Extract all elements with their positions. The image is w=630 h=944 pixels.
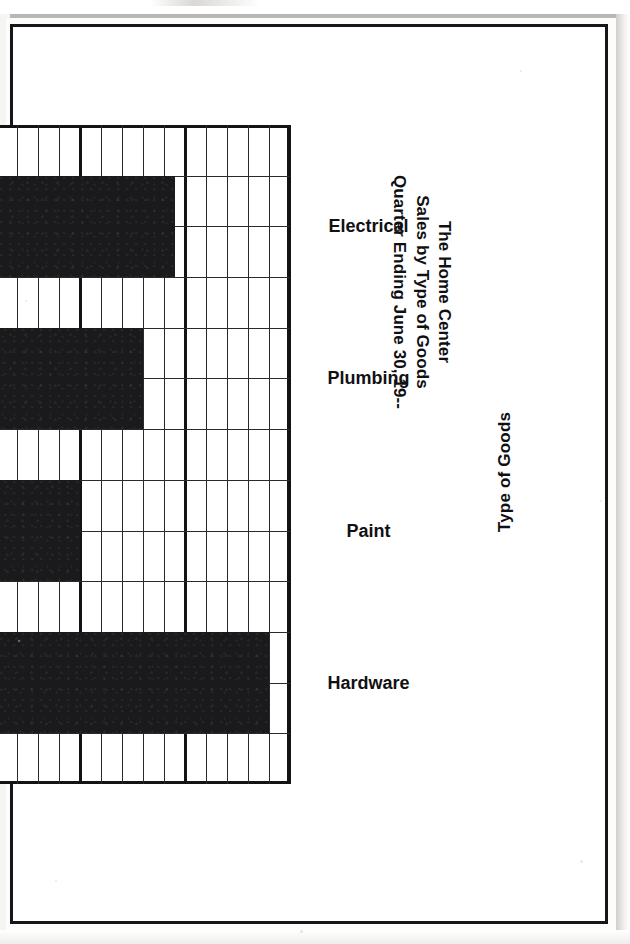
plot-area [0, 125, 290, 784]
scan-speckle [18, 640, 20, 642]
gridline-vertical [0, 277, 290, 278]
rotated-chart-wrapper: The Home Center Sales by Type of Goods Q… [55, 57, 575, 887]
category-label-paint: Paint [289, 520, 449, 541]
scan-speckle [55, 880, 57, 882]
bar-chart: The Home Center Sales by Type of Goods Q… [55, 57, 575, 887]
chart-title-line-2: Sales by Type of Goods [410, 127, 432, 457]
category-label-electrical: Electrical [289, 216, 449, 237]
gridline-vertical [0, 429, 290, 430]
bar-paint [0, 480, 81, 581]
chart-title-line-3: Quarter Ending June 30, 19-- [388, 127, 410, 457]
chart-title-line-1: The Home Center [433, 127, 455, 457]
scan-top-edge [0, 0, 630, 14]
category-axis-label: Type of Goods [495, 57, 515, 887]
category-label-plumbing: Plumbing [289, 368, 449, 389]
gridline-vertical [0, 733, 290, 734]
scan-speckle [300, 930, 303, 933]
scan-right-edge [616, 14, 630, 944]
gridline-vertical [0, 581, 290, 582]
scan-bottom-edge [0, 930, 630, 944]
scan-speckle [580, 860, 583, 863]
scan-speckle [520, 70, 522, 72]
chart-title: The Home Center Sales by Type of Goods Q… [388, 127, 455, 457]
scan-speckle [25, 300, 27, 302]
bar-electrical [0, 176, 175, 277]
scan-artifact-mark [150, 0, 260, 6]
scanned-page: The Home Center Sales by Type of Goods Q… [0, 0, 630, 944]
category-label-hardware: Hardware [289, 672, 449, 693]
bar-hardware [0, 632, 269, 733]
bar-plumbing [0, 328, 143, 429]
scan-speckle [600, 500, 602, 502]
